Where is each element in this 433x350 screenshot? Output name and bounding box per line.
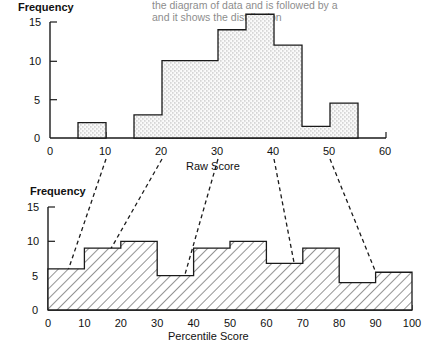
- bottom-x-axis-title: Percentile Score: [168, 330, 249, 342]
- top-xtick-40: 40: [267, 145, 279, 157]
- top-ytick-5: 5: [34, 94, 40, 106]
- dual-histogram-figure: the diagram of data and is followed by a…: [0, 0, 433, 350]
- bottom-ytick-0: 0: [32, 304, 38, 316]
- top-ytick-0: 0: [34, 132, 40, 144]
- bottom-xtick-20: 20: [115, 317, 127, 329]
- figure-container: the diagram of data and is followed by a…: [0, 0, 433, 350]
- top-ytick-15: 15: [29, 16, 41, 28]
- top-y-axis-title: Frequency: [18, 1, 75, 13]
- bottom-ytick-5: 5: [32, 270, 38, 282]
- top-x-axis-title: Raw Score: [186, 160, 240, 172]
- bleed-line-1: the diagram of data and is followed by a: [152, 0, 338, 11]
- bottom-ytick-10: 10: [27, 235, 39, 247]
- top-xtick-60: 60: [379, 145, 391, 157]
- bottom-xtick-90: 90: [369, 317, 381, 329]
- bottom-xtick-10: 10: [78, 317, 90, 329]
- bottom-xtick-30: 30: [151, 317, 163, 329]
- percentile-score-histogram-bars: [48, 241, 412, 310]
- bottom-xtick-50: 50: [224, 317, 236, 329]
- top-xtick-20: 20: [155, 145, 167, 157]
- bottom-y-axis-title: Frequency: [30, 185, 87, 197]
- top-xtick-0: 0: [47, 145, 53, 157]
- top-xtick-50: 50: [323, 145, 335, 157]
- top-ytick-10: 10: [29, 55, 41, 67]
- raw-score-histogram-bars: [78, 14, 358, 138]
- bottom-xtick-80: 80: [333, 317, 345, 329]
- bottom-ytick-15: 15: [27, 201, 39, 213]
- bottom-xtick-0: 0: [45, 317, 51, 329]
- top-xtick-10: 10: [99, 145, 111, 157]
- raw-score-chart: Frequency 15 10 5 0: [18, 1, 391, 172]
- bottom-xtick-70: 70: [297, 317, 309, 329]
- bottom-xtick-100: 100: [403, 317, 421, 329]
- top-xtick-30: 30: [211, 145, 223, 157]
- bottom-x-tick-labels: 0102030405060708090100: [45, 317, 421, 329]
- top-y-ticks: 15 10 5 0: [29, 16, 57, 144]
- bottom-xtick-40: 40: [187, 317, 199, 329]
- percentile-score-chart: Frequency 15 10 5 0 01020304050607080901…: [27, 185, 421, 342]
- bleed-through-text: the diagram of data and is followed by a…: [152, 0, 338, 23]
- bottom-xtick-60: 60: [260, 317, 272, 329]
